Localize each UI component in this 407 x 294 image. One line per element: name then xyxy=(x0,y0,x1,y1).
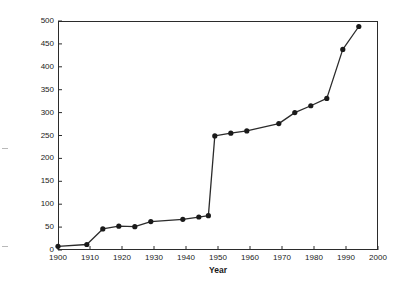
data-point xyxy=(340,47,345,52)
data-point xyxy=(180,217,185,222)
data-point xyxy=(132,224,137,229)
data-point xyxy=(244,128,249,133)
data-point xyxy=(116,224,121,229)
data-point xyxy=(206,213,211,218)
data-point xyxy=(196,214,201,219)
data-point xyxy=(292,110,297,115)
y-tick-label: 500 xyxy=(24,16,54,25)
y-tick-label: 150 xyxy=(24,176,54,185)
data-point xyxy=(228,131,233,136)
y-tick-label: 200 xyxy=(24,153,54,162)
x-tick-label: 2000 xyxy=(358,253,398,262)
y-axis-title: Total number of prescriptions written (m… xyxy=(0,0,16,294)
data-point xyxy=(212,133,217,138)
y-tick-label: 350 xyxy=(24,85,54,94)
y-tick-label: 250 xyxy=(24,131,54,140)
data-point xyxy=(324,96,329,101)
data-point xyxy=(100,226,105,231)
scan-artifact-left-top xyxy=(2,148,8,149)
data-point xyxy=(55,244,60,249)
y-tick-label: 400 xyxy=(24,62,54,71)
data-point xyxy=(84,242,89,247)
data-point xyxy=(276,121,281,126)
data-point xyxy=(356,24,361,29)
chart-figure: 050100150200250300350400450500 190019101… xyxy=(0,0,407,294)
y-tick-label: 50 xyxy=(24,222,54,231)
data-point xyxy=(308,103,313,108)
chart-canvas xyxy=(0,0,407,294)
y-tick-label: 100 xyxy=(24,199,54,208)
y-tick-label: 300 xyxy=(24,108,54,117)
y-axis-tick-labels: 050100150200250300350400450500 xyxy=(21,0,54,294)
data-markers xyxy=(55,24,361,249)
y-tick-label: 450 xyxy=(24,39,54,48)
data-point xyxy=(148,219,153,224)
scan-artifact-left-bottom xyxy=(2,246,8,247)
x-axis-title: Year xyxy=(58,265,378,275)
